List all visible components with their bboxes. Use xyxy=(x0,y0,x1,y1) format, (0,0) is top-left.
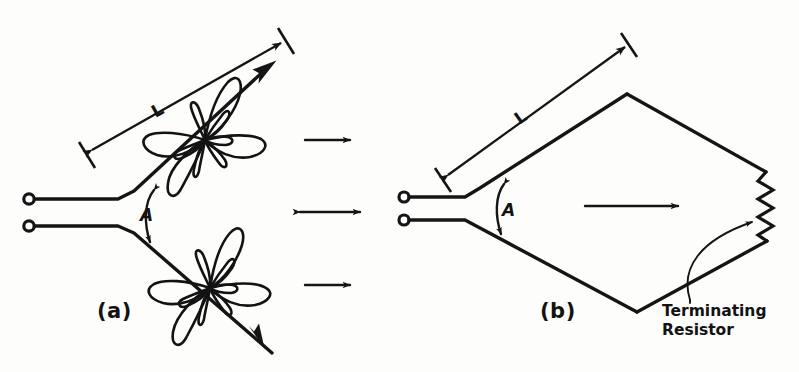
caption-a: (a) xyxy=(97,299,132,323)
angle-label-a: A xyxy=(140,205,153,225)
radiation-pattern-upper-a xyxy=(143,78,265,196)
zigzag-resistor-icon-b xyxy=(758,172,773,241)
caption-b: (b) xyxy=(540,299,576,323)
terminal-lower-a xyxy=(24,221,34,231)
length-tick-start-b xyxy=(435,168,451,192)
rhombus-side-lower-left-b xyxy=(409,220,637,312)
terminating-resistor-label-line2: Resistor xyxy=(662,321,734,340)
antenna-figure: L A (a) L A (b) Terminating Resistor xyxy=(0,0,799,372)
angle-label-b: A xyxy=(502,200,515,220)
rhombus-side-upper-right-b xyxy=(627,94,766,172)
length-tick-end-a xyxy=(278,28,294,54)
terminal-upper-a xyxy=(24,194,34,204)
length-tick-start-a xyxy=(79,142,95,168)
length-tick-end-b xyxy=(621,33,637,57)
resistor-leader-line xyxy=(688,222,752,300)
terminating-resistor-label-line1: Terminating xyxy=(662,302,766,321)
radiation-pattern-lower-a xyxy=(149,228,271,344)
